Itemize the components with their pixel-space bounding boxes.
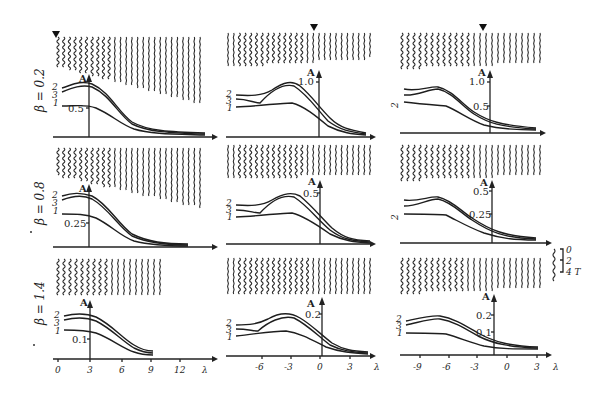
svg-text:-9: -9 [413,362,422,372]
row-label-beta-1-4: β = 1.4 [33,281,47,326]
svg-text:-3: -3 [284,362,293,372]
y-tick-label: 0.5 [68,103,84,114]
svg-text:0.5: 0.5 [473,101,489,112]
plot-r1c3: A 1.0 0.5 2 [390,67,546,136]
svg-text:9: 9 [148,365,154,375]
curve-2 [404,87,536,128]
curve-3 [236,196,370,242]
svg-text:4 T: 4 T [565,267,582,277]
trace-panel-r3c3 [401,258,540,294]
curve-3 [236,85,366,134]
svg-text:3: 3 [347,362,353,372]
svg-text:6: 6 [119,365,125,375]
time-scale-bar: 0 2 4 T [553,245,582,281]
curve-2 [236,83,366,133]
svg-text:A: A [307,176,316,187]
plot-r3c1: A 0.1 2 3 1 [53,297,218,362]
svg-text:2: 2 [565,256,572,266]
trace-panel-r2c2 [228,145,371,178]
x-ticks-c3: -9 -6 -3 0 3 λ [413,355,559,372]
svg-text:-6: -6 [442,362,451,372]
curve-2 [404,197,536,238]
source-marker-icon [479,24,487,31]
svg-text:0.1: 0.1 [72,334,88,345]
trace-panel-r3c2 [228,258,371,294]
trace-panel-r1c3 [401,33,540,69]
svg-text:0.2: 0.2 [476,310,492,321]
plot-r1c1: A 0.5 2 3 1 [51,73,218,140]
curve-2 [64,314,153,351]
svg-text:λ: λ [373,362,380,372]
svg-text:1.0: 1.0 [469,76,485,87]
svg-text:A: A [481,291,490,302]
plot-r2c1: A 0.25 2 3 1 [51,183,218,250]
plot-r2c3: A 0.5 0.25 2 [390,177,552,246]
plot-r3c2: A 0.2 2 3 1 [225,297,376,359]
trace-panel-r2c3 [401,145,540,181]
svg-text:12: 12 [174,365,186,375]
svg-text:1: 1 [55,326,61,336]
svg-text:1: 1 [227,103,233,113]
row-label-beta-0-8: β = 0.8 [33,181,47,226]
svg-text:0: 0 [55,365,61,375]
figure-3x3-panels: β = 0.2 β = 0.8 β = 1.4 A 0.5 2 3 1 A 1.… [0,0,598,403]
svg-text:λ: λ [201,365,208,375]
svg-text:0.2: 0.2 [305,309,321,320]
svg-text:0: 0 [566,245,572,255]
svg-text:1: 1 [227,212,233,222]
trace-panel-r1c2 [228,33,371,66]
plot-r1c2: A 1.0 2 3 1 [225,67,376,140]
svg-text:1.0: 1.0 [298,76,314,87]
svg-text:0: 0 [317,362,323,372]
svg-text:0.5: 0.5 [303,188,319,199]
svg-text:3: 3 [534,362,540,372]
svg-text:2: 2 [390,214,400,221]
svg-text:A: A [79,297,88,308]
curve-3 [404,199,536,239]
source-marker-icon [310,24,318,31]
svg-text:0.5: 0.5 [473,186,489,197]
x-ticks-c2: -6 -3 0 3 λ [255,356,380,372]
svg-text:A: A [306,298,315,309]
trace-panel-r1c1 [57,37,200,103]
trace-panel-r3c1 [57,259,160,295]
svg-text:0.25: 0.25 [64,218,86,229]
plot-r2c2: A 0.5 2 3 1 [225,176,376,247]
svg-text:1: 1 [53,98,59,108]
svg-text:λ: λ [552,362,559,372]
svg-text:-6: -6 [255,362,264,372]
svg-text:3: 3 [87,365,93,375]
svg-text:1: 1 [53,206,59,216]
row-label-beta-0-2: β = 0.2 [33,68,47,113]
svg-text:2: 2 [390,102,400,109]
svg-text:1: 1 [397,328,403,338]
svg-text:A: A [78,183,87,194]
svg-text:1: 1 [227,332,233,342]
x-ticks-c1: 0 3 6 9 12 λ [55,359,208,375]
svg-text:-3: -3 [470,362,479,372]
plot-r3c3: A 0.2 0.1 2 3 1 [395,291,552,358]
svg-text:0: 0 [504,362,510,372]
trace-panel-r2c1 [57,148,200,208]
curve-2 [236,314,368,352]
